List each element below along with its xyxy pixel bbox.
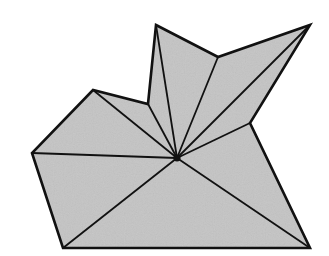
polygon-fill	[32, 25, 310, 248]
kernel-point	[173, 154, 180, 161]
star-polygon-diagram	[0, 0, 329, 256]
